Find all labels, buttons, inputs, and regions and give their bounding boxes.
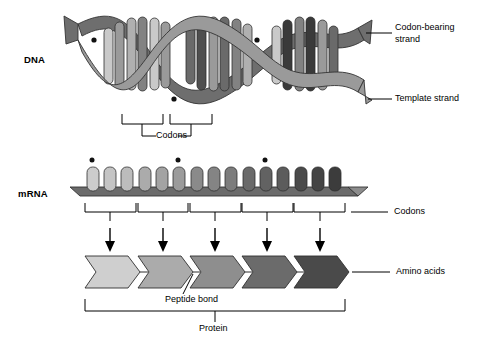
codon-bearing-strand-label-line2: strand <box>395 34 420 45</box>
amino-acids-label: Amino acids <box>396 266 445 277</box>
mrna-label: mRNA <box>18 188 48 199</box>
mrna-bases <box>87 167 341 191</box>
dna-label: DNA <box>24 54 45 65</box>
mrna-codons-label: Codons <box>394 206 425 217</box>
mrna-strand <box>70 158 368 197</box>
diagram-graphics <box>0 0 478 345</box>
mrna-codon-brackets <box>85 203 388 221</box>
dna-codons-label: Codons <box>156 130 187 141</box>
diagram-canvas: DNA mRNA Codon-bearing strand Template s… <box>0 0 478 345</box>
amino-acid-1 <box>85 256 140 288</box>
dna-double-helix <box>78 16 364 104</box>
protein-label: Protein <box>199 323 228 334</box>
peptide-bond-label: Peptide bond <box>165 294 218 305</box>
codon-bearing-strand-label-line1: Codon-bearing <box>395 22 455 33</box>
template-strand-label: Template strand <box>395 93 459 104</box>
amino-acid-chain <box>85 256 349 288</box>
mrna-marker-dots <box>90 158 268 163</box>
translation-arrows <box>105 228 325 252</box>
